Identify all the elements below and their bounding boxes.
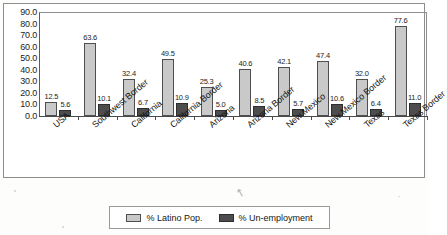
bar-value-label: 32.0	[351, 70, 373, 78]
bar-latino-pop	[395, 26, 407, 116]
legend-label-unemployment: % Un-employment	[239, 213, 313, 223]
bars-container: 12.55.663.610.132.46.749.510.925.35.040.…	[40, 13, 426, 116]
bar-value-label: 49.5	[157, 50, 179, 58]
x-axis-tick-mark	[155, 116, 156, 120]
bar-unemployment	[370, 109, 382, 116]
bar-latino-pop	[278, 67, 290, 116]
y-axis-tick-label: 0.0	[4, 112, 37, 121]
bar-value-label: 6.7	[132, 99, 154, 107]
y-axis-tick-label: 70.0	[4, 31, 37, 40]
y-axis: 0.010.020.030.040.050.060.070.080.090.0	[4, 8, 37, 120]
legend-swatch-unemployment-icon	[219, 214, 234, 222]
x-axis-tick-mark	[272, 116, 273, 120]
bar-value-label: 10.1	[93, 95, 115, 103]
bar-unemployment	[292, 109, 304, 116]
chart-frame: 0.010.020.030.040.050.060.070.080.090.0 …	[3, 3, 425, 178]
bar-group: 12.55.6	[40, 12, 79, 116]
bar-group: 40.68.5	[234, 12, 273, 116]
scan-speck	[62, 226, 64, 228]
y-axis-tick-label: 80.0	[4, 20, 37, 29]
bar-unemployment	[98, 104, 110, 116]
legend-swatch-latino-icon	[126, 214, 141, 222]
bar-value-label: 40.6	[234, 60, 256, 68]
x-axis-tick-mark	[349, 116, 350, 120]
bar-latino-pop	[84, 43, 96, 116]
bar-value-label: 10.9	[171, 94, 193, 102]
bar-value-label: 5.7	[287, 100, 309, 108]
bar-latino-pop	[356, 79, 368, 116]
bar-unemployment	[176, 103, 188, 116]
y-axis-tick-label: 20.0	[4, 89, 37, 98]
bar-unemployment	[331, 104, 343, 116]
bar-group: 47.410.6	[312, 12, 351, 116]
scan-speck	[398, 196, 400, 197]
bar-group: 32.06.4	[350, 12, 389, 116]
x-axis-tick-mark	[388, 116, 389, 120]
bar-value-label: 77.6	[390, 17, 412, 25]
x-axis-tick-mark	[427, 116, 428, 120]
bar-unemployment	[409, 103, 421, 116]
x-axis-tick-mark	[194, 116, 195, 120]
legend-item-latino: % Latino Pop.	[126, 213, 202, 223]
scan-speck	[14, 190, 16, 192]
bar-value-label: 63.6	[79, 34, 101, 42]
bar-group: 77.611.0	[389, 12, 428, 116]
bar-group: 63.610.1	[79, 12, 118, 116]
legend-label-latino: % Latino Pop.	[146, 213, 202, 223]
bar-value-label: 11.0	[404, 94, 426, 102]
bar-group: 25.35.0	[195, 12, 234, 116]
x-axis-tick-mark	[311, 116, 312, 120]
bar-value-label: 47.4	[312, 52, 334, 60]
bar-value-label: 5.0	[210, 101, 232, 109]
y-axis-tick-label: 60.0	[4, 43, 37, 52]
bar-group: 42.15.7	[273, 12, 312, 116]
y-axis-tick-label: 50.0	[4, 54, 37, 63]
x-axis-tick-mark	[117, 116, 118, 120]
bar-latino-pop	[317, 61, 329, 116]
bar-latino-pop	[162, 59, 174, 116]
bar-latino-pop	[239, 69, 251, 116]
bar-value-label: 32.4	[118, 70, 140, 78]
bar-value-label: 25.3	[196, 78, 218, 86]
y-axis-tick-label: 40.0	[4, 66, 37, 75]
cursor-icon: ↖	[235, 185, 247, 200]
bar-unemployment	[137, 108, 149, 116]
bar-value-label: 10.6	[326, 95, 348, 103]
bar-value-label: 5.6	[54, 101, 76, 109]
y-axis-tick-label: 90.0	[4, 8, 37, 17]
bar-value-label: 42.1	[273, 58, 295, 66]
bar-group: 32.46.7	[118, 12, 157, 116]
bar-group: 49.510.9	[156, 12, 195, 116]
legend-item-unemployment: % Un-employment	[219, 213, 313, 223]
y-axis-tick-label: 30.0	[4, 77, 37, 86]
chart-legend: % Latino Pop. % Un-employment	[109, 206, 330, 229]
y-axis-tick-label: 10.0	[4, 100, 37, 109]
bar-value-label: 6.4	[365, 100, 387, 108]
bar-value-label: 8.5	[248, 97, 270, 105]
bar-unemployment	[253, 106, 265, 116]
x-axis-tick-mark	[233, 116, 234, 120]
bar-value-label: 12.5	[40, 93, 62, 101]
plot-area: 12.55.663.610.132.46.749.510.925.35.040.…	[39, 12, 427, 116]
bar-latino-pop	[123, 79, 135, 116]
x-axis-tick-mark	[78, 116, 79, 120]
